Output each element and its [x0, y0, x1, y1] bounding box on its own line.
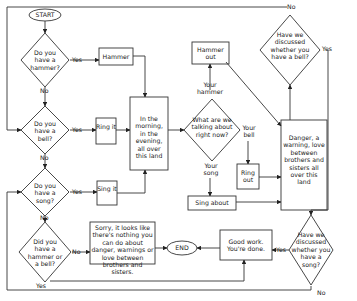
question-discussed-song: Have we discussed whether you have a son… [291, 231, 331, 268]
hammer-out-box: Hammer out [192, 46, 229, 61]
label-no-bell: No [40, 154, 48, 161]
label-yes-hammer-or-bell: Yes [36, 282, 46, 289]
sing-it-box: Sing it [97, 185, 117, 192]
end-node: END [167, 244, 197, 251]
label-no-hammer-or-bell: No [72, 248, 80, 255]
label-your-song: Your song [202, 162, 220, 177]
label-yes-bell: Yes [72, 126, 82, 133]
ring-out-box: Ring out [237, 169, 259, 184]
label-yes-hammer: Yes [72, 56, 82, 63]
danger-box: Danger, a warning, love between brothers… [283, 134, 325, 186]
label-no-discussed-song: No [317, 289, 325, 296]
morning-box: In the morning, in the evening, all over… [132, 115, 166, 159]
label-yes-discussed-song: Yes [276, 246, 286, 253]
label-no-discussed-bell: No [287, 3, 295, 10]
label-your-bell: Your bell [240, 124, 258, 139]
sing-about-box: Sing about [188, 199, 236, 206]
label-no-song: No [40, 214, 48, 221]
question-bell: Do you have a bell? [29, 120, 61, 142]
label-no-hammer: No [40, 87, 48, 94]
question-song: Do you have a song? [29, 182, 61, 204]
ring-it-box: Ring it [96, 123, 116, 130]
question-talking: What are we talking about right now? [190, 116, 234, 138]
question-discussed-bell: Have we discussed whether you have a bel… [270, 31, 310, 61]
question-hammer-or-bell: Did you have a hammer or a bell? [25, 238, 65, 268]
question-hammer: Do you have a hammer? [29, 49, 61, 71]
label-yes-song: Yes [72, 188, 82, 195]
label-yes-discussed-bell: Yes [322, 45, 332, 52]
start-node: START [29, 11, 61, 18]
sorry-box: Sorry, it looks like there's nothing you… [91, 224, 154, 276]
label-your-hammer: Your hammer [196, 81, 224, 96]
hammer-box: Hammer [99, 53, 133, 60]
good-work-box: Good work. You're done. [220, 238, 272, 253]
